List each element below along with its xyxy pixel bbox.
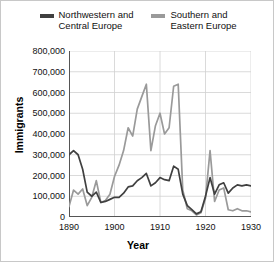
legend-label-northwestern-central-europe: Northwestern and Central Europe [59,9,134,31]
legend-label-southern-eastern-europe: Southern and Eastern Europe [170,9,236,31]
y-tick-label: 100,000 [32,191,65,201]
y-tick-label: 400,000 [32,129,65,139]
legend-item-southern-eastern-europe: Southern and Eastern Europe [151,9,236,31]
x-tick-label: 1910 [150,222,170,232]
immigration-line-chart: Northwestern and Central Europe Southern… [0,0,274,262]
y-tick-label: 500,000 [32,108,65,118]
y-tick-label: 800,000 [32,46,65,56]
x-tick-label: 1900 [104,222,124,232]
plot-area [69,51,251,217]
y-tick-label: 200,000 [32,171,65,181]
y-tick-label: 700,000 [32,67,65,77]
chart-canvas [69,51,251,217]
x-axis-tick-labels: 18901900191019201930 [1,222,274,236]
x-tick-label: 1920 [195,222,215,232]
y-tick-label: 300,000 [32,150,65,160]
x-tick-label: 1930 [241,222,261,232]
legend-swatch-southern-eastern-europe [151,14,165,18]
y-tick-label: 0 [60,212,65,222]
y-tick-label: 600,000 [32,88,65,98]
x-tick-label: 1890 [59,222,79,232]
